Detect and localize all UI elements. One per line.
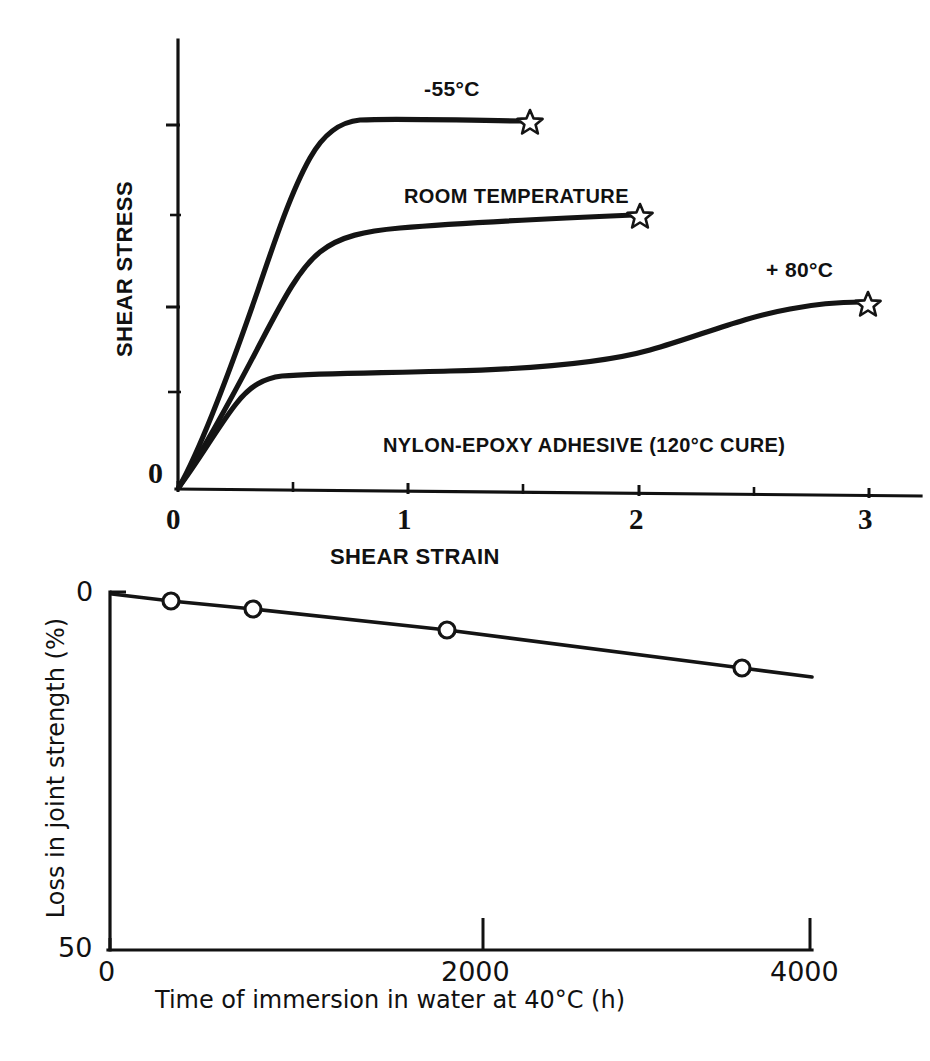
data-point-marker <box>439 622 455 638</box>
bottom-y-tick-label-50: 50 <box>58 934 92 961</box>
figure-root: -55°C ROOM TEMPERATURE + 80°C NYLON-EPOX… <box>0 0 930 1061</box>
loss-data-markers <box>163 593 750 676</box>
bottom-axis-ticks <box>110 592 810 950</box>
data-point-marker <box>163 593 179 609</box>
data-point-marker <box>245 601 261 617</box>
bottom-y-tick-label-0: 0 <box>76 578 93 605</box>
bottom-x-tick-label-0: 0 <box>98 958 115 985</box>
bottom-y-axis-title: Loss in joint strength (%) <box>44 593 68 943</box>
bottom-x-axis-title: Time of immersion in water at 40°C (h) <box>155 988 625 1012</box>
data-point-marker <box>734 660 750 676</box>
bottom-x-tick-label-2000: 2000 <box>441 958 510 985</box>
bottom-x-tick-label-4000: 4000 <box>770 958 839 985</box>
loss-trend-line <box>112 594 812 677</box>
joint-strength-loss-chart <box>0 0 930 1061</box>
